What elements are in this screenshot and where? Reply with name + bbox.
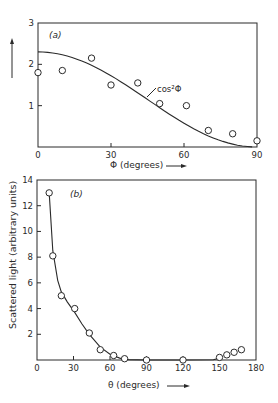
data-point [183, 102, 189, 108]
panel-a: (a) 0306090123 cos²Φ Φ (degrees) [29, 18, 263, 170]
panel-b-fit-curve [49, 193, 219, 360]
panel-b-points [46, 190, 245, 364]
y-tick-label: 14 [22, 175, 33, 185]
x-tick-label: 60 [105, 363, 116, 373]
panel-a-x-label: Φ (degrees) [110, 160, 163, 170]
data-point [35, 69, 41, 75]
panel-a-frame [38, 23, 257, 147]
x-tick-label: 90 [252, 150, 263, 160]
y-tick-label: 8 [28, 252, 33, 262]
panel-a-cos2-curve [38, 52, 252, 147]
panel-a-label: (a) [49, 30, 62, 40]
panel-b-ticks: 03060901201501802468101214 [22, 175, 264, 373]
x-tick-label: 30 [106, 150, 117, 160]
x-tick-label: 0 [34, 363, 39, 373]
y-tick-label: 2 [29, 59, 34, 69]
y-tick-label: 4 [28, 304, 33, 314]
x-tick-label: 0 [35, 150, 40, 160]
data-point [254, 138, 260, 144]
x-arrowhead-b-icon [184, 384, 190, 388]
data-point [46, 190, 52, 196]
x-tick-label: 90 [141, 363, 152, 373]
data-point [86, 330, 92, 336]
panel-b-label: (b) [70, 189, 83, 199]
panel-a-ticks: 0306090123 [29, 18, 263, 160]
cos2-annotation: cos²Φ [157, 84, 182, 94]
y-axis-label: Scattered light (arbitrary units) [7, 181, 18, 329]
y-axis-arrowhead-icon [10, 38, 14, 44]
data-point [143, 357, 149, 363]
x-tick-label: 150 [211, 363, 227, 373]
y-tick-label: 10 [22, 226, 33, 236]
data-point [231, 349, 237, 355]
data-point [88, 55, 94, 61]
y-tick-label: 2 [28, 329, 33, 339]
data-point [72, 305, 78, 311]
cos2-leader-line [147, 88, 156, 97]
data-point [180, 357, 186, 363]
panel-b: (b) 03060901201501802468101214 θ (degree… [22, 175, 264, 390]
data-point [216, 354, 222, 360]
y-tick-label: 1 [29, 101, 34, 111]
data-point [97, 347, 103, 353]
figure: Scattered light (arbitrary units) (a) 03… [0, 0, 278, 403]
y-tick-label: 6 [28, 278, 33, 288]
data-point [224, 352, 230, 358]
x-tick-label: 120 [175, 363, 191, 373]
x-tick-label: 30 [68, 363, 79, 373]
data-point [229, 131, 235, 137]
y-tick-label: 12 [22, 201, 33, 211]
data-point [108, 82, 114, 88]
x-tick-label: 180 [248, 363, 264, 373]
data-point [135, 80, 141, 86]
data-point [58, 293, 64, 299]
y-tick-label: 3 [29, 18, 34, 28]
data-point [59, 67, 65, 73]
data-point [50, 253, 56, 259]
data-point [238, 347, 244, 353]
panel-b-x-label: θ (degrees) [108, 380, 160, 390]
data-point [121, 356, 127, 362]
data-point [156, 100, 162, 106]
data-point [205, 127, 211, 133]
data-point [110, 352, 116, 358]
x-tick-label: 60 [179, 150, 190, 160]
panel-b-frame [37, 180, 256, 360]
x-arrowhead-a-icon [181, 164, 187, 168]
shared-y-axis-label: Scattered light (arbitrary units) [7, 38, 18, 329]
